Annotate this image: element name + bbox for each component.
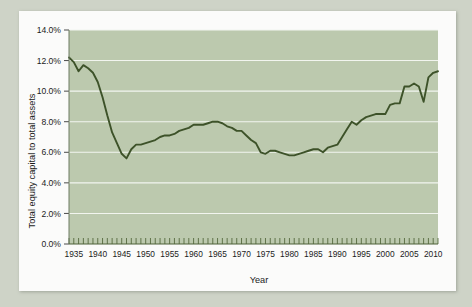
x-tick-label: 1975 — [256, 249, 275, 259]
x-tick-label: 2010 — [424, 249, 443, 259]
y-tick-label: 4.0% — [41, 178, 61, 188]
line-chart: 0.0%2.0%4.0%6.0%8.0%10.0%12.0%14.0% 1935… — [19, 11, 456, 291]
y-tick-label: 6.0% — [41, 147, 61, 157]
y-axis-title: Total equity capital to total assets — [27, 93, 37, 228]
x-tick-label: 1995 — [352, 249, 371, 259]
chart-figure: 0.0%2.0%4.0%6.0%8.0%10.0%12.0%14.0% 1935… — [0, 0, 472, 307]
x-tick-label: 1985 — [304, 249, 323, 259]
y-axis-ticks — [64, 30, 69, 244]
x-tick-label: 1980 — [280, 249, 299, 259]
y-axis-tick-labels: 0.0%2.0%4.0%6.0%8.0%10.0%12.0%14.0% — [37, 25, 62, 249]
x-tick-label: 2000 — [376, 249, 395, 259]
x-tick-label: 1955 — [160, 249, 179, 259]
y-tick-label: 0.0% — [41, 239, 61, 249]
x-tick-label: 1990 — [328, 249, 347, 259]
y-tick-label: 2.0% — [41, 209, 61, 219]
x-axis-title: Year — [250, 275, 269, 285]
y-tick-label: 14.0% — [37, 25, 62, 35]
x-tick-label: 1950 — [136, 249, 155, 259]
x-tick-label: 1960 — [184, 249, 203, 259]
x-axis-tick-labels: 1935194019451950195519601965197019751980… — [64, 249, 442, 259]
x-tick-label: 2005 — [400, 249, 419, 259]
x-tick-label: 1945 — [112, 249, 131, 259]
y-tick-label: 8.0% — [41, 117, 61, 127]
chart-card: 0.0%2.0%4.0%6.0%8.0%10.0%12.0%14.0% 1935… — [19, 11, 456, 291]
y-tick-label: 10.0% — [37, 86, 62, 96]
x-tick-label: 1965 — [208, 249, 227, 259]
y-tick-label: 12.0% — [37, 56, 62, 66]
x-tick-label: 1940 — [88, 249, 107, 259]
x-tick-label: 1935 — [64, 249, 83, 259]
x-tick-label: 1970 — [232, 249, 251, 259]
plot-area-background — [69, 30, 438, 244]
